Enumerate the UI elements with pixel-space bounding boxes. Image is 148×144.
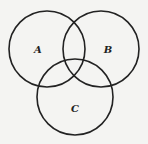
set-c-label: C xyxy=(71,103,79,114)
venn-diagram: A B C xyxy=(0,0,148,144)
set-b-circle xyxy=(63,11,139,87)
set-a-label: A xyxy=(33,44,42,55)
set-c-circle xyxy=(37,59,113,135)
set-b-label: B xyxy=(103,44,112,55)
